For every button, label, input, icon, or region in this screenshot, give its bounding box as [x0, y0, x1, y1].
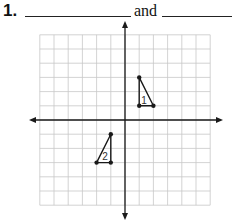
vertex-point — [94, 160, 98, 164]
vertex-point — [109, 160, 113, 164]
x-axis — [29, 117, 223, 123]
vertex-point — [137, 75, 141, 79]
triangle-label: 1 — [141, 95, 147, 106]
y-axis-down-arrow-icon — [122, 213, 128, 220]
vertex-point — [151, 104, 155, 108]
x-axis-left-arrow-icon — [29, 117, 36, 123]
coordinate-plane: 12 — [0, 0, 232, 223]
x-axis-right-arrow-icon — [216, 117, 223, 123]
vertex-point — [109, 132, 113, 136]
triangle-label: 2 — [102, 151, 108, 162]
y-axis-up-arrow-icon — [122, 21, 128, 28]
